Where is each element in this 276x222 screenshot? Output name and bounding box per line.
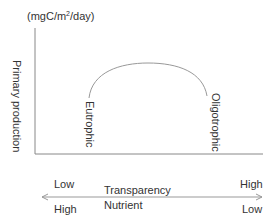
nutrient-label: Nutrient	[104, 199, 143, 211]
unit-label: (mgC/m2/day)	[27, 10, 94, 22]
nutrient-high-label: High	[54, 203, 77, 215]
y-axis-label: Primary production	[11, 60, 23, 152]
eutrophic-label: Eutrophic	[84, 101, 96, 147]
transparency-label: Transparency	[104, 184, 171, 196]
transparency-high-label: High	[240, 178, 263, 190]
transparency-low-label: Low	[54, 178, 74, 190]
nutrient-low-label: Low	[242, 203, 262, 215]
oligotrophic-label: Oligotrophic	[210, 93, 222, 152]
production-curve	[89, 63, 207, 98]
